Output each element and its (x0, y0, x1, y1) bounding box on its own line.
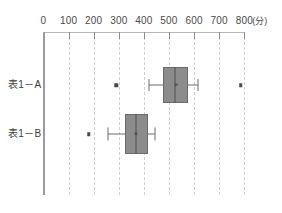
x-axis-tick-mark (219, 32, 220, 39)
outlier-point (115, 83, 119, 87)
whisker-high-cap (197, 79, 198, 91)
outlier-point (239, 83, 243, 87)
gridline (169, 32, 170, 195)
x-axis-unit-label: (分) (252, 14, 267, 28)
gridline (194, 32, 195, 195)
gridline (94, 32, 95, 195)
mean-marker: × (174, 81, 179, 89)
x-axis-tick-label: 700 (211, 14, 228, 28)
x-axis-tick-mark (194, 32, 195, 39)
x-axis-tick-labels: 0100200300400500600700800(分) (0, 14, 282, 30)
x-axis-tick-mark (69, 32, 70, 39)
gridline (244, 32, 245, 195)
whisker-low-cap (107, 127, 108, 140)
x-axis-tick-mark (94, 32, 95, 39)
gridline (219, 32, 220, 195)
whisker-high-line (188, 85, 198, 86)
whisker-low-cap (148, 79, 149, 91)
gridline (119, 32, 120, 195)
boxplot-chart: 0100200300400500600700800(分) 表1－A表1－B ×× (0, 0, 282, 213)
x-axis-tick-mark (144, 32, 145, 39)
mean-marker: × (134, 130, 139, 138)
gridline (69, 32, 70, 195)
whisker-low-line (149, 85, 163, 86)
whisker-high-cap (155, 127, 156, 140)
x-axis-tick-label: 200 (85, 14, 102, 28)
x-axis-tick-label: 600 (185, 14, 202, 28)
x-axis-tick-label: 800 (236, 14, 253, 28)
x-axis-tick-label: 300 (110, 14, 127, 28)
x-axis-tick-label: 100 (60, 14, 77, 28)
x-axis-tick-label: 0 (41, 14, 47, 28)
x-axis-tick-mark (169, 32, 170, 39)
x-axis-tick-label: 400 (135, 14, 152, 28)
series-label-a: 表1－A (8, 79, 41, 91)
y-axis-line (44, 32, 45, 195)
series-label-b: 表1－B (8, 128, 41, 140)
x-axis-tick-mark (244, 32, 245, 39)
x-axis-tick-label: 500 (160, 14, 177, 28)
x-axis-tick-mark (119, 32, 120, 39)
whisker-low-line (108, 134, 126, 135)
outlier-point (87, 132, 91, 136)
